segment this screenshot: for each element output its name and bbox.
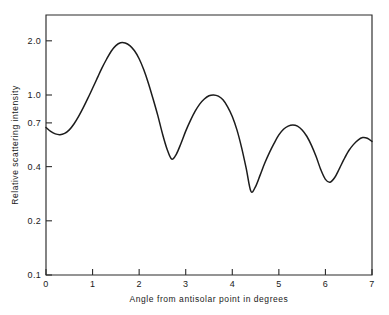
x-tick-label: 0	[43, 279, 48, 289]
x-tick-label: 1	[90, 279, 95, 289]
y-tick-label: 0.1	[28, 270, 41, 280]
x-tick-label: 7	[369, 279, 374, 289]
x-tick-label: 5	[276, 279, 281, 289]
x-tick-label: 2	[136, 279, 141, 289]
y-tick-label: 0.2	[28, 216, 41, 226]
y-tick-label: 0.4	[28, 162, 41, 172]
x-tick-label: 6	[323, 279, 328, 289]
scattering-intensity-chart-figure: 2.01.00.70.40.20.1 01234567 Angle from a…	[0, 0, 389, 315]
y-axis-title: Relative scattering intensity	[10, 85, 20, 205]
x-tick-label: 4	[230, 279, 235, 289]
x-axis-title: Angle from antisolar point in degrees	[130, 294, 289, 304]
chart-canvas: 2.01.00.70.40.20.1 01234567 Angle from a…	[0, 0, 389, 315]
chart-background	[0, 0, 389, 315]
y-tick-label: 2.0	[28, 36, 41, 46]
y-tick-label: 1.0	[28, 90, 41, 100]
y-tick-label: 0.7	[28, 118, 41, 128]
x-tick-label: 3	[183, 279, 188, 289]
